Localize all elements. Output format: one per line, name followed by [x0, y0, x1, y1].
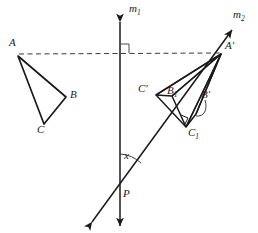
label-vertex-A: A — [9, 37, 16, 48]
label-vertex-C: C — [37, 124, 44, 135]
ray-Aprime-to-B1 — [172, 54, 221, 96]
segment-B1-to-C1 — [172, 96, 186, 127]
label-m2: m2 — [233, 9, 245, 23]
right-angle-mark — [120, 44, 129, 53]
geometry-figure: m1 m2 A B C A′ C′ B1 B′ C1 x P — [0, 0, 258, 233]
label-angle-x: x — [124, 150, 129, 161]
mirror-line-m2 — [92, 30, 232, 222]
label-vertex-B: B — [70, 89, 77, 100]
label-vertex-Cprime: C′ — [138, 83, 148, 94]
label-vertex-C1: C1 — [188, 127, 199, 141]
label-point-P: P — [123, 188, 130, 199]
label-vertex-Bprime: B′ — [201, 89, 210, 100]
label-vertex-B1: B1 — [167, 85, 177, 99]
triangle-ABC — [18, 56, 66, 124]
label-m1: m1 — [129, 3, 141, 17]
label-vertex-Aprime: A′ — [225, 40, 234, 51]
